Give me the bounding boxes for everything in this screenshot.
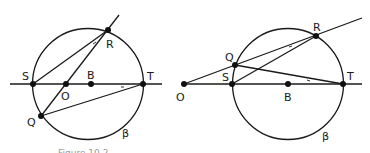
left-label-B: B	[87, 69, 95, 82]
right-point-O	[181, 81, 187, 87]
left-point-Q	[38, 113, 44, 119]
right-label-R: R	[313, 21, 321, 34]
left-label-beta: β	[122, 127, 129, 140]
left-label-S: S	[22, 70, 29, 83]
right-point-S	[229, 81, 235, 87]
right-point-B	[285, 81, 291, 87]
left-segment-QT	[41, 84, 143, 116]
right-line-OQR	[184, 18, 362, 84]
left-label-R: R	[106, 38, 114, 51]
left-point-R	[105, 27, 111, 33]
right-point-T	[340, 81, 346, 87]
left-label-T: T	[146, 70, 154, 83]
left-point-T	[140, 81, 146, 87]
left-segment-SR	[33, 30, 108, 84]
right-label-Q: Q	[225, 51, 234, 64]
left-label-O: O	[61, 90, 70, 103]
figure-caption: Figure 10.2	[58, 148, 108, 153]
right-label-B: B	[284, 91, 292, 104]
left-point-S	[30, 81, 36, 87]
left-angle-mark-R	[93, 42, 96, 44]
right-label-T: T	[346, 70, 354, 83]
left-point-O	[63, 81, 69, 87]
right-label-O: O	[176, 91, 185, 104]
left-label-Q: Q	[27, 116, 36, 129]
right-label-S: S	[222, 71, 229, 84]
right-angle-mark-T	[307, 80, 310, 81]
right-angle-mark-R	[289, 46, 292, 47]
geometry-diagram: S O B T R Q β O S B T R Q β Figure 10.2	[0, 0, 370, 153]
right-segment-QT	[235, 65, 343, 84]
right-label-beta: β	[322, 130, 329, 143]
